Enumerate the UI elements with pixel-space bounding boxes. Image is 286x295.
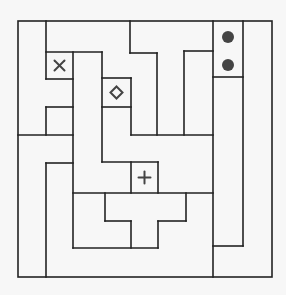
maze-walls [18, 21, 243, 277]
plus-icon [139, 172, 151, 184]
maze-board [0, 0, 286, 295]
diamond-icon [111, 87, 123, 99]
maze-symbols [55, 31, 235, 184]
cross-x-icon [55, 61, 65, 71]
dot-icon [222, 59, 234, 71]
maze-outer-frame [18, 21, 272, 277]
dot-icon [222, 31, 234, 43]
